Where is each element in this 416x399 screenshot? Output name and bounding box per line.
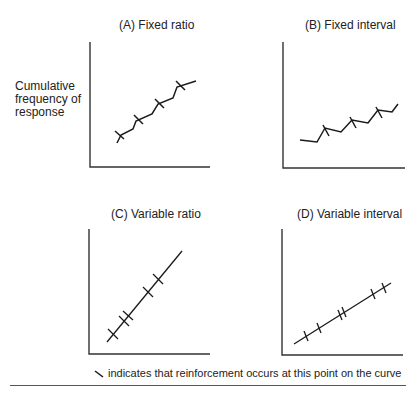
reinforcement-tick-icon [94,370,104,378]
panel-a-curve [115,81,196,143]
panel-b-curve [300,104,398,142]
panel-d-curve [294,283,391,344]
caption: indicates that reinforcement occurs at t… [94,367,402,379]
panel-c-curve [107,251,182,342]
curves-layer [0,0,416,399]
bottom-rule [10,385,406,386]
caption-text: indicates that reinforcement occurs at t… [108,367,402,379]
reinforcement-tick-icon [338,310,342,320]
reinforcement-tick-icon [350,117,356,128]
